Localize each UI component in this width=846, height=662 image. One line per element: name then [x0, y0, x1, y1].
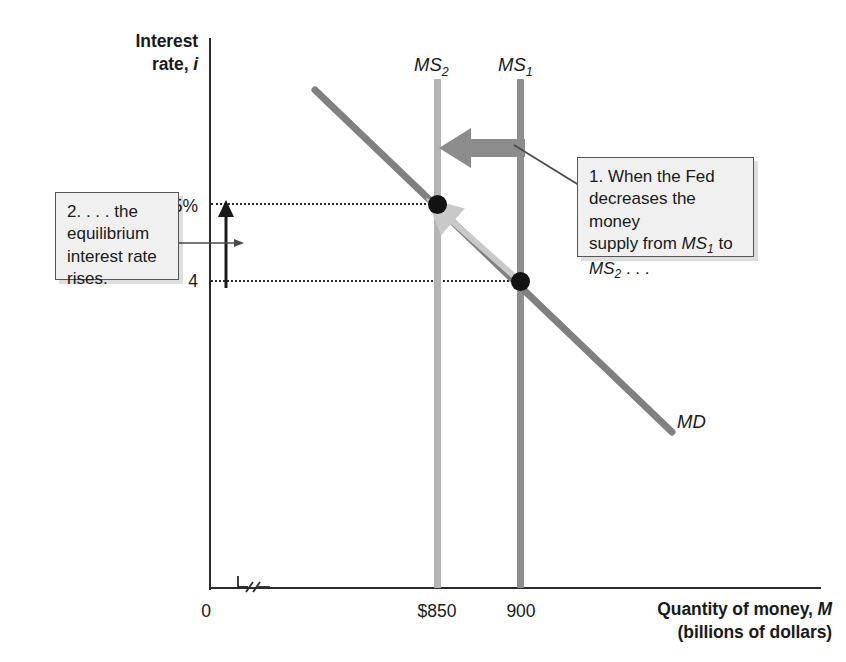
callout-step1-line3-pre: supply from — [589, 234, 677, 253]
x-tick-label-850: $850 — [404, 601, 470, 622]
callout-step2-line3: interest rate — [67, 247, 157, 266]
callout-step1-line2: decreases the money — [589, 189, 696, 230]
x-axis-title-variable: M — [818, 599, 832, 619]
y-axis-title-variable: i — [193, 54, 198, 74]
callout-step1-line3-post: to — [719, 234, 733, 253]
y-axis-line — [209, 38, 211, 590]
y-axis-title-line1: Interest — [136, 31, 198, 51]
callout-step1-line1: 1. When the Fed — [589, 167, 715, 186]
callout-step2-line2: equilibrium — [67, 224, 149, 243]
callout-step2-line4: rises. — [67, 269, 108, 288]
x-axis-title-line1: Quantity of money, — [657, 599, 812, 619]
origin-label: 0 — [191, 601, 221, 622]
callout-step1-line4-post: . . . — [626, 259, 650, 278]
x-axis-title-line2: (billions of dollars) — [678, 622, 832, 642]
callout-step2-line1: 2. . . . the — [67, 202, 138, 221]
y-axis-title-line2: rate, — [152, 54, 188, 74]
callout-step1-ms1-ref: MS1 — [682, 234, 714, 253]
callout-step1-connector — [512, 143, 584, 191]
ms2-curve-label: MS2 — [414, 54, 449, 79]
x-axis-break-icon — [236, 574, 270, 600]
money-market-diagram: Interest rate, i Quantity of money, M (b… — [0, 0, 846, 662]
callout-step2-connector — [176, 235, 244, 251]
callout-step2[interactable]: 2. . . . the equilibrium interest rate r… — [55, 192, 179, 280]
x-axis-title: Quantity of money, M (billions of dollar… — [570, 598, 832, 644]
y-axis-title: Interest rate, i — [100, 30, 198, 77]
x-axis-line — [209, 587, 821, 589]
equilibrium-dot-new — [428, 195, 447, 214]
equilibrium-dot-initial — [511, 272, 530, 291]
callout-step1-ms2-ref: MS2 — [589, 259, 621, 278]
x-tick-label-900: 900 — [492, 601, 550, 622]
callout-step1[interactable]: 1. When the Fed decreases the money supp… — [577, 157, 754, 257]
md-curve-label: MD — [677, 411, 706, 433]
ms1-curve-label: MS1 — [498, 54, 533, 79]
